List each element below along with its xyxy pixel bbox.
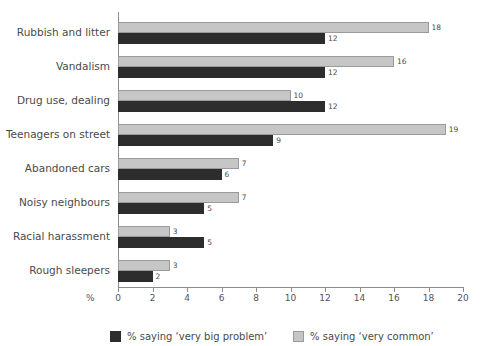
category-label: Abandoned cars	[0, 162, 110, 174]
x-axis-tick-label: 16	[382, 293, 406, 303]
bar-dark	[118, 67, 325, 78]
x-axis-unit-label: %	[86, 293, 95, 303]
bar-value-label: 5	[207, 237, 212, 248]
bar-value-label: 12	[328, 33, 338, 44]
legend-item-label: % saying ‘very common’	[310, 331, 434, 342]
x-axis-tick-label: 6	[210, 293, 234, 303]
x-axis-tick-label: 0	[106, 293, 130, 303]
bar-value-label: 5	[207, 203, 212, 214]
legend-item-very-big-problem[interactable]: % saying ‘very big problem’	[110, 329, 267, 343]
category-label: Rubbish and litter	[0, 26, 110, 38]
x-axis-tick-label: 12	[313, 293, 337, 303]
bar-value-label: 18	[432, 22, 442, 33]
bar-value-label: 3	[173, 226, 178, 237]
plot-area: 18121612101219976753532	[118, 12, 463, 287]
bar-value-label: 3	[173, 260, 178, 271]
legend-item-very-common[interactable]: % saying ‘very common’	[293, 329, 434, 343]
bar-light	[118, 158, 239, 169]
x-axis-tick-mark	[325, 288, 326, 292]
x-axis-tick-mark	[394, 288, 395, 292]
x-axis-tick-mark	[291, 288, 292, 292]
x-axis-tick-mark	[153, 288, 154, 292]
bar-dark	[118, 135, 273, 146]
bar-dark	[118, 33, 325, 44]
bar-dark	[118, 169, 222, 180]
bar-light	[118, 56, 394, 67]
bar-value-label: 12	[328, 101, 338, 112]
bar-light	[118, 90, 291, 101]
bar-light	[118, 124, 446, 135]
bar-value-label: 16	[397, 56, 407, 67]
bar-light	[118, 22, 429, 33]
bar-value-label: 19	[449, 124, 459, 135]
category-label: Vandalism	[0, 60, 110, 72]
category-label: Rough sleepers	[0, 264, 110, 276]
legend-item-label: % saying ‘very big problem’	[127, 331, 267, 342]
x-axis-tick-label: 18	[417, 293, 441, 303]
legend-swatch-icon	[293, 331, 304, 342]
x-axis-tick-mark	[463, 288, 464, 292]
x-axis-tick-label: 2	[141, 293, 165, 303]
x-axis-tick-label: 10	[279, 293, 303, 303]
chart-title	[118, 0, 463, 2]
bar-value-label: 9	[276, 135, 281, 146]
bar-value-label: 10	[294, 90, 304, 101]
bar-dark	[118, 237, 204, 248]
x-axis-tick-mark	[256, 288, 257, 292]
legend-swatch-icon	[110, 331, 121, 342]
bar-value-label: 7	[242, 158, 247, 169]
x-axis-tick-label: 4	[175, 293, 199, 303]
category-label: Noisy neighbours	[0, 196, 110, 208]
bar-dark	[118, 101, 325, 112]
category-label: Drug use, dealing	[0, 94, 110, 106]
x-axis-tick-mark	[187, 288, 188, 292]
bar-value-label: 12	[328, 67, 338, 78]
x-axis-tick-label: 20	[451, 293, 475, 303]
x-axis-tick-mark	[360, 288, 361, 292]
horizontal-bar-chart: Rubbish and litterVandalismDrug use, dea…	[0, 0, 484, 346]
category-label: Racial harassment	[0, 230, 110, 242]
x-axis-tick-mark	[429, 288, 430, 292]
bar-value-label: 6	[225, 169, 230, 180]
x-axis-tick-mark	[222, 288, 223, 292]
bar-value-label: 7	[242, 192, 247, 203]
x-axis-tick-label: 8	[244, 293, 268, 303]
bar-light	[118, 260, 170, 271]
bar-light	[118, 192, 239, 203]
bar-value-label: 2	[156, 271, 161, 282]
x-axis-tick-mark	[118, 288, 119, 292]
chart-legend: % saying ‘very big problem’ % saying ‘ve…	[0, 329, 484, 346]
bar-dark	[118, 203, 204, 214]
category-label: Teenagers on street	[0, 128, 110, 140]
x-axis-tick-label: 14	[348, 293, 372, 303]
bar-dark	[118, 271, 153, 282]
bar-light	[118, 226, 170, 237]
